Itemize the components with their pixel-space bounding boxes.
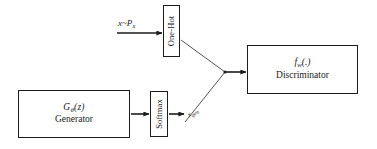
merge-junction-node xyxy=(223,70,226,73)
gan-architecture-diagram: x~Px One-Hot Gθ(z) Generator Softmax xge… xyxy=(0,0,377,149)
generated-sample-subscript: gen xyxy=(190,109,200,118)
softmax-block[interactable]: Softmax xyxy=(150,91,168,137)
generated-sample-label: xgen xyxy=(186,106,200,119)
discriminator-formula: fw(.) xyxy=(294,58,310,69)
discriminator-block[interactable]: fw(.) Discriminator xyxy=(247,45,358,94)
generator-formula-suffix: (z) xyxy=(74,102,85,112)
softmax-label: Softmax xyxy=(154,99,164,129)
generator-caption: Generator xyxy=(55,115,93,125)
generator-block[interactable]: Gθ(z) Generator xyxy=(18,90,130,138)
line-onehot-to-junction xyxy=(181,40,225,72)
real-data-distribution-subscript: x xyxy=(132,22,135,29)
generator-formula: Gθ(z) xyxy=(63,103,84,114)
onehot-block[interactable]: One-Hot xyxy=(163,5,180,57)
real-data-distribution-text: x~P xyxy=(118,18,132,28)
onehot-label: One-Hot xyxy=(167,16,177,46)
discriminator-formula-suffix: (.) xyxy=(302,57,311,67)
discriminator-caption: Discriminator xyxy=(276,71,329,81)
real-data-distribution-label: x~Px xyxy=(118,18,135,29)
